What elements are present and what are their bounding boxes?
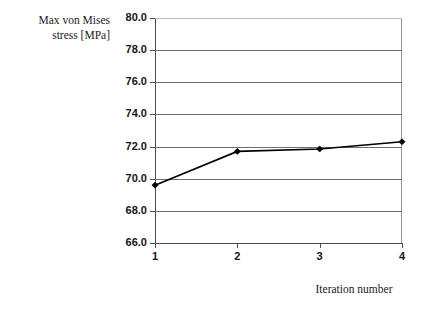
y-tick-label: 66.0 xyxy=(87,236,147,248)
y-tick-label: 74.0 xyxy=(87,107,147,119)
chart-figure: Max von Mises stress [MPa] 80.078.076.07… xyxy=(0,0,428,309)
series-line xyxy=(155,142,402,185)
data-point-marker xyxy=(234,148,240,154)
y-tick-label: 76.0 xyxy=(87,75,147,87)
x-tick-mark xyxy=(402,243,403,248)
gridline-66-0 xyxy=(155,243,402,244)
x-tick-label: 2 xyxy=(217,250,257,262)
x-tick-mark xyxy=(237,243,238,248)
data-point-marker xyxy=(317,146,323,152)
y-tick-label: 68.0 xyxy=(87,204,147,216)
data-point-marker xyxy=(399,139,405,145)
data-series-layer xyxy=(155,18,402,243)
x-tick-mark xyxy=(320,243,321,248)
x-axis-title: Iteration number xyxy=(288,283,420,295)
y-tick-label: 70.0 xyxy=(87,172,147,184)
x-tick-mark xyxy=(155,243,156,248)
data-point-marker xyxy=(152,182,158,188)
y-tick-label: 80.0 xyxy=(87,11,147,23)
plot-area xyxy=(155,18,402,243)
x-tick-label: 1 xyxy=(135,250,175,262)
x-tick-label: 4 xyxy=(382,250,422,262)
y-tick-label: 78.0 xyxy=(87,43,147,55)
y-tick-label: 72.0 xyxy=(87,140,147,152)
x-tick-label: 3 xyxy=(300,250,340,262)
